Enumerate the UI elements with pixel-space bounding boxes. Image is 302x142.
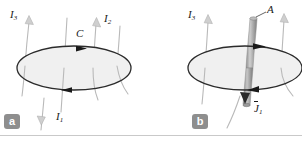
label-contour-c-panel-a: C	[76, 27, 83, 39]
tube-top-cap-b	[250, 17, 257, 20]
current-arrow-i1-a	[37, 116, 45, 125]
label-i3-panel-a: I3	[10, 8, 17, 20]
label-i1-panel-a: I1	[56, 110, 63, 122]
current-arrow-i3-a	[25, 16, 33, 25]
label-area-panel-b: A	[267, 3, 274, 15]
label-i2-panel-a: I2	[104, 12, 111, 24]
area-leader-line-b	[256, 12, 266, 17]
panel-b	[188, 12, 302, 128]
panel-badge-a: a	[4, 114, 20, 129]
current-arrow-right-b	[280, 14, 288, 23]
label-current-density-panel-b: J1	[254, 102, 262, 114]
current-arrow-i3-b	[204, 15, 212, 24]
panel-badge-b: b	[192, 114, 208, 129]
panel-a	[17, 16, 131, 131]
label-i3-panel-b: I3	[188, 8, 195, 20]
current-arrow-i2-a	[93, 18, 101, 28]
tube-bottom-cap-b	[243, 103, 250, 106]
physics-figure	[0, 0, 302, 142]
vector-overbar	[254, 101, 258, 102]
